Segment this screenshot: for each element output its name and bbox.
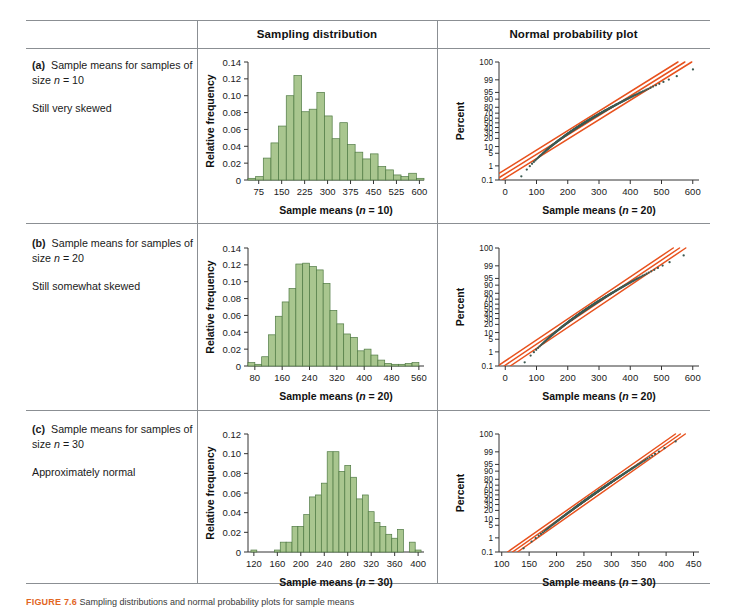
svg-text:99: 99 — [484, 262, 494, 271]
svg-text:Relative frequency: Relative frequency — [204, 74, 216, 168]
header-normal-probability-plot: Normal probability plot — [437, 20, 710, 48]
svg-text:0.10: 0.10 — [223, 448, 242, 459]
svg-text:525: 525 — [389, 186, 405, 197]
svg-text:360: 360 — [387, 558, 403, 569]
row-b-marker: (b) — [32, 237, 46, 249]
svg-text:500: 500 — [654, 372, 670, 383]
svg-text:0.14: 0.14 — [223, 243, 242, 254]
svg-text:450: 450 — [686, 558, 702, 569]
svg-text:80: 80 — [484, 103, 494, 112]
svg-text:100: 100 — [479, 58, 493, 67]
table-header-rule — [26, 48, 710, 49]
header-sampling-distribution-label: Sampling distribution — [257, 28, 377, 40]
svg-text:Relative frequency: Relative frequency — [204, 446, 216, 540]
svg-text:400: 400 — [622, 372, 638, 383]
column-divider-2 — [437, 20, 438, 583]
svg-text:200: 200 — [560, 372, 576, 383]
svg-text:240: 240 — [302, 372, 318, 383]
svg-text:320: 320 — [363, 558, 379, 569]
svg-text:0.1: 0.1 — [482, 176, 494, 185]
svg-text:10: 10 — [484, 515, 494, 524]
svg-text:0.08: 0.08 — [223, 468, 242, 479]
svg-text:0: 0 — [236, 175, 241, 186]
svg-text:480: 480 — [384, 372, 400, 383]
svg-text:150: 150 — [274, 186, 290, 197]
svg-text:0.02: 0.02 — [223, 158, 242, 169]
header-sampling-distribution: Sampling distribution — [197, 20, 437, 48]
svg-text:240: 240 — [316, 558, 332, 569]
svg-text:0.1: 0.1 — [482, 362, 494, 371]
svg-text:100: 100 — [494, 558, 510, 569]
svg-text:0.02: 0.02 — [223, 527, 242, 538]
row-b-line2: Still somewhat skewed — [32, 279, 194, 294]
svg-text:Percent: Percent — [454, 473, 466, 512]
figure-7-6: Sampling distribution Normal probability… — [0, 0, 730, 611]
svg-text:0: 0 — [503, 186, 508, 197]
svg-text:80: 80 — [484, 475, 494, 484]
svg-text:Percent: Percent — [454, 101, 466, 140]
svg-text:600: 600 — [685, 372, 701, 383]
svg-text:0.04: 0.04 — [223, 327, 242, 338]
svg-text:160: 160 — [269, 558, 285, 569]
svg-text:10: 10 — [484, 143, 494, 152]
chart-normal-probability-plot-b: 0.11510203040506070809095991000100200300… — [451, 238, 713, 406]
svg-text:300: 300 — [591, 372, 607, 383]
row-a-line1: (a) Sample means for samples of size n =… — [32, 58, 194, 88]
svg-text:0: 0 — [503, 372, 508, 383]
svg-text:Percent: Percent — [454, 287, 466, 326]
svg-text:0.06: 0.06 — [223, 310, 242, 321]
svg-text:95: 95 — [484, 88, 494, 97]
svg-text:0.06: 0.06 — [223, 124, 242, 135]
svg-text:400: 400 — [410, 558, 426, 569]
svg-text:350: 350 — [631, 558, 647, 569]
svg-text:Sample means (n = 20): Sample means (n = 20) — [279, 390, 393, 402]
chart-sampling-distribution-n30: 00.020.040.060.080.100.12120160200240280… — [202, 424, 430, 592]
svg-text:0.12: 0.12 — [223, 429, 242, 440]
svg-text:0: 0 — [236, 547, 241, 558]
svg-text:1: 1 — [488, 534, 493, 543]
chart-sampling-distribution-n10: 00.020.040.060.080.100.120.1475150225300… — [202, 52, 430, 220]
chart-normal-probability-plot-c: 0.11510203040506070809095991001001502002… — [451, 424, 713, 592]
row-divider-b-c — [26, 410, 710, 411]
figure-caption-text: Sampling distributions and normal probab… — [80, 597, 355, 607]
svg-text:75: 75 — [253, 186, 264, 197]
svg-text:500: 500 — [654, 186, 670, 197]
figure-table: Sampling distribution Normal probability… — [26, 20, 710, 584]
header-normal-probability-plot-label: Normal probability plot — [509, 28, 637, 40]
svg-text:0.1: 0.1 — [482, 548, 494, 557]
svg-text:300: 300 — [320, 186, 336, 197]
svg-text:600: 600 — [685, 186, 701, 197]
row-c-line1: (c) Sample means for samples of size n =… — [32, 422, 194, 452]
svg-text:100: 100 — [529, 186, 545, 197]
svg-text:0.08: 0.08 — [223, 107, 242, 118]
svg-text:450: 450 — [366, 186, 382, 197]
svg-text:80: 80 — [250, 372, 261, 383]
svg-text:0.06: 0.06 — [223, 488, 242, 499]
svg-text:1: 1 — [488, 348, 493, 357]
figure-number: FIGURE 7.6 — [26, 597, 77, 607]
svg-text:0.14: 0.14 — [223, 57, 242, 68]
svg-text:Relative frequency: Relative frequency — [204, 260, 216, 354]
svg-text:Sample means (n = 30): Sample means (n = 30) — [279, 576, 393, 588]
column-divider-1 — [197, 20, 198, 583]
svg-text:250: 250 — [576, 558, 592, 569]
svg-text:0.10: 0.10 — [223, 90, 242, 101]
svg-text:1: 1 — [488, 162, 493, 171]
svg-text:200: 200 — [560, 186, 576, 197]
row-c-marker: (c) — [32, 423, 45, 435]
row-b-line1: (b) Sample means for samples of size n =… — [32, 236, 194, 266]
svg-text:100: 100 — [479, 244, 493, 253]
row-a-marker: (a) — [32, 59, 45, 71]
svg-text:400: 400 — [658, 558, 674, 569]
svg-text:99: 99 — [484, 76, 494, 85]
figure-caption: FIGURE 7.6 Sampling distributions and no… — [26, 596, 716, 608]
svg-text:120: 120 — [246, 558, 262, 569]
svg-text:Sample means (n = 20): Sample means (n = 20) — [542, 390, 656, 402]
svg-text:95: 95 — [484, 460, 494, 469]
svg-text:375: 375 — [343, 186, 359, 197]
svg-text:400: 400 — [356, 372, 372, 383]
svg-text:320: 320 — [329, 372, 345, 383]
row-a-description: (a) Sample means for samples of size n =… — [32, 58, 194, 116]
svg-text:0: 0 — [236, 361, 241, 372]
chart-sampling-distribution-n20: 00.020.040.060.080.100.120.1480160240320… — [202, 238, 430, 406]
